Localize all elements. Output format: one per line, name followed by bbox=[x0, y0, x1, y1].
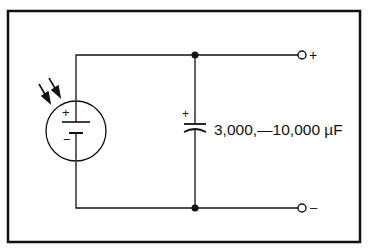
bottom-wire bbox=[76, 162, 298, 208]
junction-dot-top bbox=[192, 52, 199, 59]
light-arrows-icon bbox=[39, 78, 60, 103]
capacitor-plus-label: + bbox=[182, 107, 189, 121]
circuit-diagram: + – + − + 3,000,—10,000 µF bbox=[0, 0, 368, 250]
terminal-negative-label: – bbox=[310, 200, 318, 215]
terminal-positive-label: + bbox=[309, 47, 317, 63]
capacitor-value-label: 3,000,—10,000 µF bbox=[214, 121, 343, 138]
capacitor-icon: + bbox=[182, 107, 206, 132]
terminal-positive bbox=[298, 51, 306, 59]
source-plus-label: + bbox=[62, 105, 70, 120]
solar-cell-icon: + − bbox=[46, 101, 106, 161]
source-minus-label: − bbox=[63, 132, 71, 147]
terminal-negative bbox=[298, 204, 306, 212]
junction-dot-bottom bbox=[192, 205, 199, 212]
top-wire bbox=[76, 55, 298, 100]
